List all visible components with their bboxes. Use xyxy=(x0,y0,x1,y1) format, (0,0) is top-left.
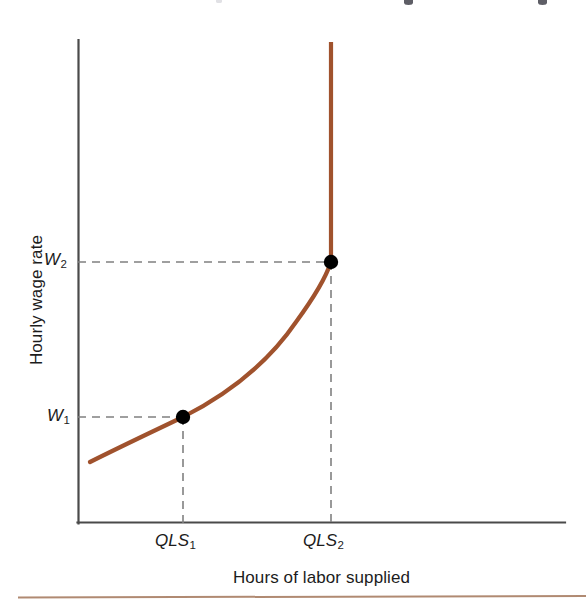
x-tick-label-qls2-text: QLS xyxy=(303,531,337,550)
clipped-caption-glyph xyxy=(404,0,413,5)
data-point-w2-qls2 xyxy=(324,255,338,269)
data-point-w1-qls1 xyxy=(176,410,190,424)
x-tick-label-qls1-text: QLS xyxy=(155,531,189,550)
y-tick-label-w2: W2 xyxy=(44,250,66,270)
y-axis-title: Hourly wage rate xyxy=(27,190,47,410)
y-tick-label-w1-subscript: 1 xyxy=(64,414,70,426)
clipped-caption-glyph xyxy=(216,0,222,3)
clipped-caption-glyph xyxy=(538,0,547,5)
chart-canvas xyxy=(0,0,586,607)
y-tick-label-w1: W1 xyxy=(47,406,69,426)
bottom-rule xyxy=(18,596,586,598)
y-tick-label-w1-text: W xyxy=(47,406,63,425)
y-tick-label-w2-subscript: 2 xyxy=(61,258,67,270)
x-tick-label-qls2-subscript: 2 xyxy=(338,539,344,551)
figure-backward-bending-labor-supply: Hourly wage rate Hours of labor supplied… xyxy=(0,0,586,607)
x-tick-label-qls1: QLS1 xyxy=(155,531,195,551)
x-tick-label-qls1-subscript: 1 xyxy=(190,539,196,551)
y-tick-label-w2-text: W xyxy=(44,250,60,269)
x-axis-title: Hours of labor supplied xyxy=(78,568,565,588)
labor-supply-curve xyxy=(90,263,331,462)
x-tick-label-qls2: QLS2 xyxy=(303,531,343,551)
